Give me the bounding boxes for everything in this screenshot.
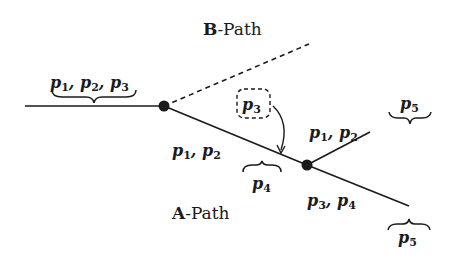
p3-insert-arrow [273,106,284,150]
p4-label: p4 [252,174,271,195]
segment-a1-label: p1, p2 [172,141,221,162]
upper-p5-brace [389,112,431,124]
b-path-label: B-Path [203,19,262,39]
upper-p5-label: p5 [400,94,419,115]
path-split-diagram: B-Path A-Path p1, p2, p3 p1, p2 p3 p4 p1… [0,0,457,264]
split-node-1 [159,101,170,112]
p4-brace [243,161,281,172]
incoming-label: p1, p2, p3 [50,73,129,94]
upper-branch-label: p1, p2 [309,123,358,144]
lower-p5-label: p5 [398,228,417,249]
split-node-2 [302,160,313,171]
a-path-label: A-Path [171,203,230,223]
lower-branch-label: p3, p4 [307,191,356,212]
boxed-p3-label: p3 [242,95,261,116]
